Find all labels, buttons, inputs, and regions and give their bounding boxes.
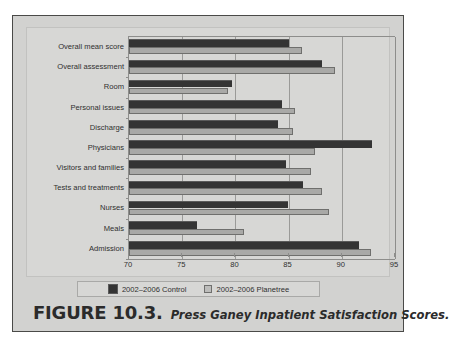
bar-planetree — [129, 209, 329, 216]
category-label: Personal issues — [26, 98, 129, 118]
bar-row: Tests and treatments — [129, 178, 395, 198]
control-swatch — [108, 284, 118, 294]
x-axis: 707580859095 — [128, 260, 394, 274]
category-label: Visitors and families — [26, 158, 129, 178]
plot-right-edge — [395, 37, 396, 259]
bar-row: Meals — [129, 219, 395, 239]
bar-control — [129, 60, 322, 68]
bar-row: Visitors and families — [129, 158, 395, 178]
category-label: Physicians — [26, 138, 129, 158]
bar-control — [129, 120, 278, 128]
planetree-swatch — [204, 285, 212, 293]
bar-control — [129, 201, 288, 209]
x-tick-label-90: 90 — [337, 260, 345, 269]
bar-planetree — [129, 47, 302, 54]
category-label: Room — [26, 77, 129, 97]
bar-row: Overall mean score — [129, 37, 395, 57]
legend-entry: 2002–2006 Control — [108, 284, 187, 294]
bar-row: Admission — [129, 239, 395, 259]
x-tick-mark-80 — [234, 253, 235, 257]
bar-planetree — [129, 128, 293, 135]
bar-row: Overall assessment — [129, 57, 395, 77]
bar-row: Physicians — [129, 138, 395, 158]
bar-control — [129, 80, 232, 88]
x-tick-mark-75 — [181, 253, 182, 257]
bar-row: Personal issues — [129, 98, 395, 118]
x-tick-label-95: 95 — [390, 260, 398, 269]
category-label: Overall mean score — [26, 37, 129, 57]
bar-control — [129, 181, 303, 189]
category-label: Overall assessment — [26, 57, 129, 77]
category-label: Nurses — [26, 198, 129, 218]
legend-label: 2002–2006 Planetree — [216, 285, 289, 294]
bar-control — [129, 39, 289, 47]
chart-legend: 2002–2006 Control2002–2006 Planetree — [77, 281, 320, 297]
x-tick-label-80: 80 — [230, 260, 238, 269]
caption-title: Press Ganey Inpatient Satisfaction Score… — [171, 308, 449, 322]
bar-row: Room — [129, 77, 395, 97]
bar-control — [129, 140, 372, 148]
figure-frame: Overall mean scoreOverall assessmentRoom… — [12, 15, 404, 332]
x-tick-mark-70 — [128, 253, 129, 257]
bar-control — [129, 221, 197, 229]
category-label: Meals — [26, 219, 129, 239]
x-tick-label-75: 75 — [177, 260, 185, 269]
bar-row: Discharge — [129, 118, 395, 138]
x-tick-mark-90 — [341, 253, 342, 257]
bar-planetree — [129, 188, 322, 195]
category-label: Admission — [26, 239, 129, 259]
category-label: Tests and treatments — [26, 178, 129, 198]
legend-entry: 2002–2006 Planetree — [204, 285, 289, 294]
bar-planetree — [129, 148, 315, 155]
caption-figure-number: FIGURE 10.3. — [33, 302, 163, 323]
x-tick-label-70: 70 — [124, 260, 132, 269]
legend-label: 2002–2006 Control — [122, 285, 187, 294]
bar-planetree — [129, 108, 295, 115]
bar-row: Nurses — [129, 198, 395, 218]
plot-area: Overall mean scoreOverall assessmentRoom… — [128, 36, 395, 260]
bar-planetree — [129, 168, 311, 175]
bar-planetree — [129, 249, 371, 256]
bar-planetree — [129, 67, 335, 74]
figure-caption: FIGURE 10.3. Press Ganey Inpatient Satis… — [33, 302, 393, 326]
bar-control — [129, 241, 359, 249]
x-tick-mark-95 — [394, 253, 395, 257]
bar-planetree — [129, 88, 228, 95]
bar-control — [129, 100, 282, 108]
category-label: Discharge — [26, 118, 129, 138]
x-tick-label-85: 85 — [283, 260, 291, 269]
x-tick-mark-85 — [288, 253, 289, 257]
bar-control — [129, 160, 286, 168]
bar-planetree — [129, 229, 244, 236]
chart-panel: Overall mean scoreOverall assessmentRoom… — [26, 27, 390, 277]
